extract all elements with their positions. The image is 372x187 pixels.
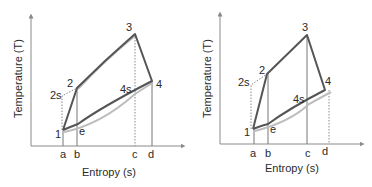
right-tick-a: a <box>250 147 257 159</box>
right-label-e: e <box>270 123 276 135</box>
left-label-3: 3 <box>126 21 132 33</box>
right-label-2: 2 <box>259 64 265 76</box>
left-tick-d: d <box>148 148 154 160</box>
right-cycle <box>253 35 325 129</box>
left-label-2: 2 <box>67 77 73 89</box>
left-label-4s: 4s <box>120 83 132 95</box>
right-tick-b: b <box>265 147 271 159</box>
right-tick-c: c <box>305 147 311 159</box>
right-ts-diagram: 1 2 2s 3 4 4s e a b c d Entropy (s) Temp… <box>201 14 362 174</box>
left-ts-diagram: 1 2 2s 3 4 4s e a b c d Entropy (s) Temp… <box>12 16 183 178</box>
left-label-1: 1 <box>55 128 61 140</box>
right-label-3: 3 <box>302 21 308 33</box>
left-x-axis-label: Entropy (s) <box>82 166 136 178</box>
ts-diagrams: 1 2 2s 3 4 4s e a b c d Entropy (s) Temp… <box>0 0 372 187</box>
left-heat-add-shadow <box>78 35 136 89</box>
right-label-1: 1 <box>244 126 250 138</box>
left-tick-a: a <box>60 148 67 160</box>
right-label-4s: 4s <box>293 93 305 105</box>
left-label-2s: 2s <box>50 89 62 101</box>
left-tick-c: c <box>132 148 138 160</box>
right-x-axis-label: Entropy (s) <box>265 162 319 174</box>
left-label-4: 4 <box>156 78 162 90</box>
left-y-axis-label: Temperature (T) <box>12 39 24 118</box>
left-tick-b: b <box>74 148 80 160</box>
left-label-e: e <box>79 125 85 137</box>
right-y-axis-label: Temperature (T) <box>201 39 213 118</box>
right-label-2s: 2s <box>238 76 250 88</box>
right-label-4: 4 <box>325 75 331 87</box>
right-tick-d: d <box>322 145 328 157</box>
